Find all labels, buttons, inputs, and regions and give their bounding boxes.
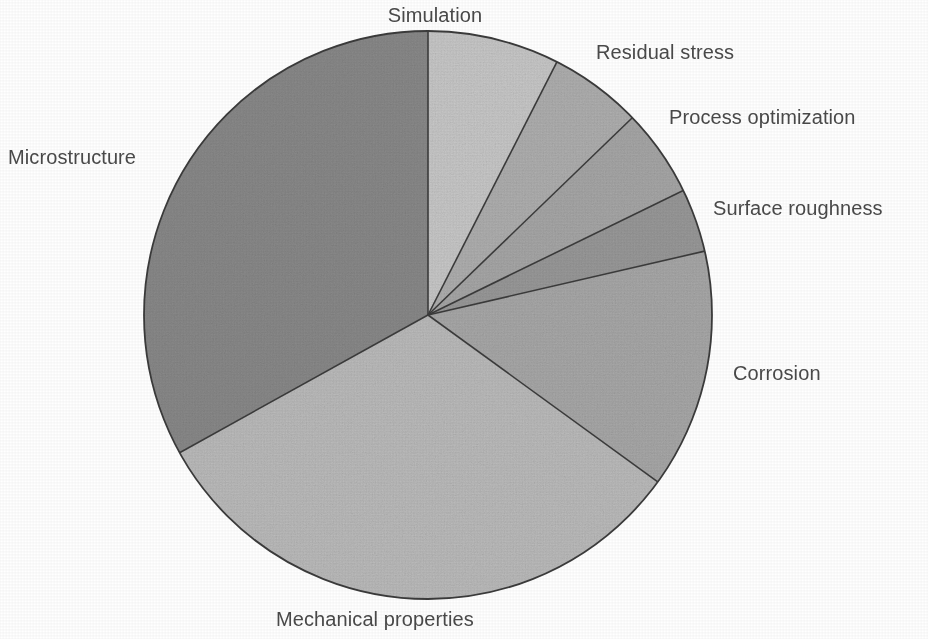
pie-label-residual-stress: Residual stress (596, 41, 734, 63)
pie-label-simulation: Simulation (388, 4, 482, 26)
pie-label-mechanical-properties: Mechanical properties (276, 608, 474, 630)
pie-label-corrosion: Corrosion (733, 362, 821, 384)
pie-chart-canvas (0, 0, 928, 639)
pie-label-process-optimization: Process optimization (669, 106, 856, 128)
pie-label-microstructure: Microstructure (8, 146, 136, 168)
pie-chart: Simulation Residual stress Process optim… (0, 0, 928, 639)
pie-label-surface-roughness: Surface roughness (713, 197, 883, 219)
